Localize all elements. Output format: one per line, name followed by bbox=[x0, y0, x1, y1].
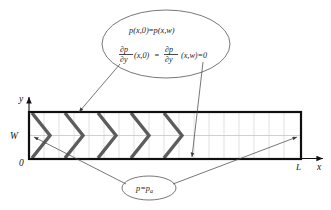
eq2-num1: ∂p bbox=[120, 45, 128, 54]
eq1-arg2: (x,w) bbox=[158, 26, 175, 35]
eq2-num2: ∂p bbox=[165, 45, 173, 54]
origin-label: 0 bbox=[19, 158, 24, 168]
top-callout-leader-right bbox=[192, 62, 203, 157]
eq2-arg2: (x,w)=0 bbox=[181, 51, 207, 60]
eq1-arg1: (x,0) bbox=[133, 26, 149, 35]
pressure-equation: p=pa bbox=[135, 184, 153, 194]
eq2-equals: = bbox=[154, 51, 160, 60]
bottom-eq-label: p=p bbox=[135, 184, 150, 193]
y-axis-label: y bbox=[18, 94, 24, 104]
width-label: W bbox=[10, 131, 19, 141]
top-callout-leader-left bbox=[79, 64, 120, 112]
bottom-callout-leader-right bbox=[173, 137, 297, 184]
eq2-den2: ∂y bbox=[165, 55, 173, 64]
periodic-gradient-equation: ∂p ∂y (x,0) = ∂p ∂y (x,w)=0 bbox=[119, 45, 207, 64]
svg-text:p=pa: p=pa bbox=[135, 184, 153, 194]
periodic-pressure-equation: p(x,0)=p(x,w) bbox=[128, 26, 175, 35]
top-callout-ellipse bbox=[102, 10, 230, 78]
svg-text:p(x,0)=p(x,w): p(x,0)=p(x,w) bbox=[128, 26, 175, 35]
boundary-condition-diagram: y 0 W L x p(x,0)=p(x,w) ∂p ∂y (x,0) = ∂p… bbox=[0, 0, 331, 210]
length-label: L bbox=[295, 162, 301, 172]
eq2-arg1: (x,0) bbox=[134, 51, 150, 60]
figure-canvas: y 0 W L x p(x,0)=p(x,w) ∂p ∂y (x,0) = ∂p… bbox=[0, 0, 331, 210]
bottom-callout-leader-left bbox=[34, 137, 126, 184]
x-axis-label: x bbox=[316, 162, 322, 172]
bottom-eq-subscript: a bbox=[150, 188, 153, 194]
eq2-den1: ∂y bbox=[120, 55, 128, 64]
